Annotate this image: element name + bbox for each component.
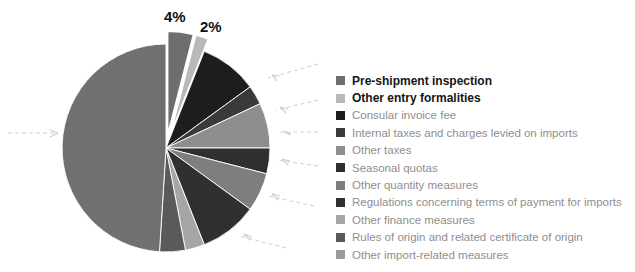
legend-item[interactable]: Regulations concerning terms of payment … bbox=[336, 194, 632, 211]
legend-item-label: Seasonal quotas bbox=[352, 162, 438, 174]
legend-item-label: Other import-related measures bbox=[352, 249, 509, 261]
legend-item-label: Consular invoice fee bbox=[352, 109, 456, 121]
legend-item-label: Other finance measures bbox=[352, 214, 475, 226]
legend-item-label: Regulations concerning terms of payment … bbox=[352, 196, 622, 208]
legend-swatch-icon bbox=[336, 181, 345, 190]
legend-item-label: Pre-shipment inspection bbox=[352, 75, 492, 87]
legend-swatch-icon bbox=[336, 250, 345, 259]
legend-swatch-icon bbox=[336, 163, 345, 172]
legend-swatch-icon bbox=[336, 76, 345, 85]
legend-item[interactable]: Other finance measures bbox=[336, 211, 632, 228]
legend-item[interactable]: Consular invoice fee bbox=[336, 107, 632, 124]
legend-item[interactable]: Pre-shipment inspection bbox=[336, 72, 632, 89]
legend-swatch-icon bbox=[336, 215, 345, 224]
legend-swatch-icon bbox=[336, 128, 345, 137]
legend-item-label: Other taxes bbox=[352, 144, 411, 156]
legend-item-label: Internal taxes and charges levied on imp… bbox=[352, 127, 578, 139]
pie-chart-figure: 4% 2% Pre-shipment inspectionOther entry… bbox=[0, 0, 635, 272]
legend-item[interactable]: Other entry formalities bbox=[336, 89, 632, 106]
legend-item[interactable]: Rules of origin and related certificate … bbox=[336, 229, 632, 246]
chart-legend: Pre-shipment inspectionOther entry forma… bbox=[336, 72, 632, 263]
legend-item-label: Other quantity measures bbox=[352, 179, 478, 191]
legend-swatch-icon bbox=[336, 111, 345, 120]
legend-swatch-icon bbox=[336, 198, 345, 207]
pie-chart-plot-area: 4% 2% bbox=[0, 0, 320, 272]
legend-item[interactable]: Internal taxes and charges levied on imp… bbox=[336, 124, 632, 141]
legend-item-label: Rules of origin and related certificate … bbox=[352, 231, 583, 243]
pie-slice[interactable] bbox=[62, 44, 166, 252]
legend-swatch-icon bbox=[336, 146, 345, 155]
legend-item-label: Other entry formalities bbox=[352, 92, 481, 104]
pie-chart-svg bbox=[0, 0, 320, 272]
legend-swatch-icon bbox=[336, 94, 345, 103]
pie-data-label-pre-shipment-inspection: 4% bbox=[164, 8, 186, 25]
legend-item[interactable]: Other quantity measures bbox=[336, 176, 632, 193]
legend-item[interactable]: Other import-related measures bbox=[336, 246, 632, 263]
legend-item[interactable]: Other taxes bbox=[336, 142, 632, 159]
pie-data-label-other-entry-formalities: 2% bbox=[200, 18, 222, 35]
legend-swatch-icon bbox=[336, 233, 345, 242]
legend-item[interactable]: Seasonal quotas bbox=[336, 159, 632, 176]
pie-slice-group bbox=[62, 31, 270, 252]
